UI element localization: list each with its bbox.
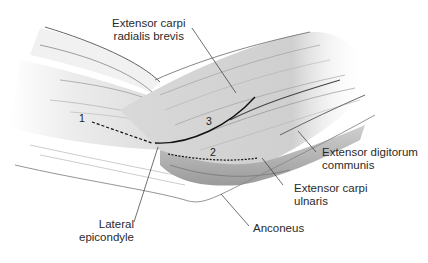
marker-2: 2 [210, 146, 216, 158]
label-ecrb-line1: Extensor carpi [112, 17, 186, 30]
label-ecrb-line2: radialis brevis [112, 30, 186, 43]
marker-1: 1 [79, 112, 85, 124]
label-lateral-epicondyle-line1: Lateral [76, 218, 134, 231]
label-edc: Extensor digitorum communis [322, 146, 418, 172]
label-ecu: Extensor carpi ulnaris [294, 182, 368, 208]
label-lateral-epicondyle: Lateral epicondyle [76, 218, 134, 244]
marker-3: 3 [206, 115, 212, 127]
label-edc-line1: Extensor digitorum [322, 146, 418, 159]
elbow-illustration [0, 0, 428, 263]
label-anconeus: Anconeus [253, 222, 304, 235]
label-ecrb: Extensor carpi radialis brevis [112, 17, 186, 43]
label-anconeus-line1: Anconeus [253, 222, 304, 235]
label-ecu-line1: Extensor carpi [294, 182, 368, 195]
label-ecu-line2: ulnaris [294, 195, 368, 208]
leader-lateral-epicondyle [134, 147, 158, 222]
label-lateral-epicondyle-line2: epicondyle [76, 231, 134, 244]
label-edc-line2: communis [322, 159, 418, 172]
leader-anconeus [221, 194, 249, 226]
